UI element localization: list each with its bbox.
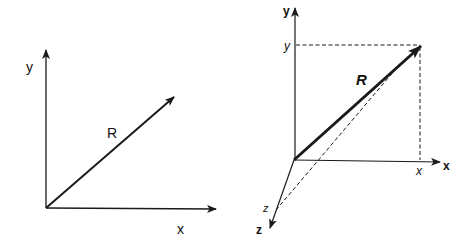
component-x-label: x — [415, 164, 423, 178]
left-vector-r — [46, 97, 174, 208]
left-vector-label: R — [107, 125, 117, 141]
left-y-axis-label: y — [26, 59, 33, 75]
right-x-axis — [294, 160, 440, 162]
right-vector-r — [294, 46, 421, 160]
right-z-axis-label: z — [256, 223, 262, 237]
component-z-label: z — [262, 202, 269, 214]
left-2d-diagram: y x R — [26, 50, 216, 237]
left-x-axis-label: x — [177, 221, 184, 237]
right-vector-label: R — [356, 71, 367, 88]
right-x-axis-label: x — [443, 159, 450, 173]
left-x-axis — [46, 208, 216, 209]
vector-diagrams: y x R y x z y x z R — [0, 0, 472, 244]
right-3d-diagram: y x z y x z R — [256, 4, 450, 237]
component-y-label: y — [283, 39, 291, 53]
right-y-axis-label: y — [283, 4, 290, 18]
right-z-axis — [270, 160, 294, 228]
